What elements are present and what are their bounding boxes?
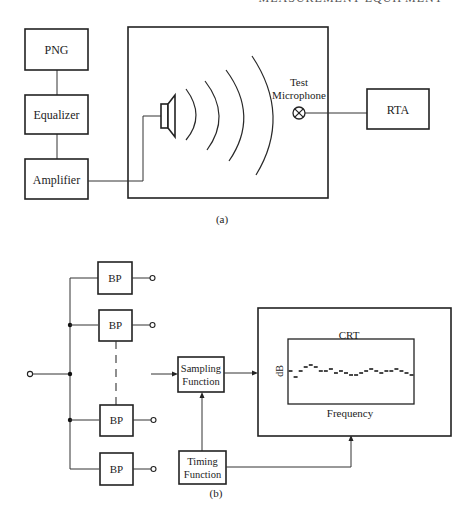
equalizer-block: Equalizer — [25, 95, 88, 134]
figure-canvas: PNG Equalizer Amplifier Test — [0, 0, 463, 506]
figure-a-caption: (a) — [216, 213, 229, 226]
rta-block: RTA — [367, 89, 429, 129]
png-block: PNG — [25, 29, 88, 70]
bandpass-filter-4: BP — [100, 453, 156, 485]
timing-label-line2: Function — [184, 469, 222, 480]
microphone-label-line1: Test — [290, 76, 308, 88]
crt-screen — [288, 339, 414, 404]
amplifier-block: Amplifier — [25, 159, 88, 199]
bp-label: BP — [108, 272, 121, 284]
input-terminal-icon — [27, 371, 32, 376]
timing-function-block: Timing Function — [179, 451, 226, 484]
figure-a: PNG Equalizer Amplifier Test — [25, 27, 429, 226]
amplifier-label: Amplifier — [33, 173, 80, 187]
sampling-label-line2: Function — [182, 376, 220, 387]
rta-label: RTA — [387, 103, 410, 117]
arrowhead-icon — [200, 392, 205, 398]
bandpass-filter-1: BP — [98, 262, 155, 294]
png-label: PNG — [44, 43, 68, 57]
output-terminal-icon — [150, 323, 155, 328]
arrow-timing-to-crt — [226, 438, 351, 467]
sampling-label-line1: Sampling — [181, 363, 222, 374]
equalizer-label: Equalizer — [34, 108, 80, 122]
crt-x-axis-label: Frequency — [327, 407, 374, 419]
figure-b-caption: (b) — [210, 487, 223, 500]
bandpass-filter-2: BP — [99, 310, 155, 341]
junction-dot-icon — [68, 372, 72, 376]
bp-label: BP — [110, 414, 123, 426]
arrowhead-icon — [172, 372, 178, 377]
output-terminal-icon — [150, 276, 155, 281]
bp-label: BP — [110, 463, 123, 475]
bp-label: BP — [109, 319, 122, 331]
output-terminal-icon — [151, 418, 156, 423]
sampling-function-block: Sampling Function — [178, 357, 224, 392]
arrowhead-icon — [252, 371, 258, 376]
microphone-symbol-icon — [293, 107, 305, 119]
figure-b: BP BP BP BP — [27, 262, 451, 500]
timing-label-line1: Timing — [187, 456, 218, 467]
output-terminal-icon — [151, 467, 156, 472]
bandpass-filter-3: BP — [100, 405, 156, 436]
crt-y-axis-label: dB — [274, 365, 285, 377]
microphone-label-line2: Microphone — [272, 89, 326, 101]
